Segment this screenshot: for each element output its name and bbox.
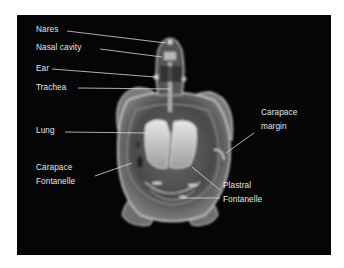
leader-nasal-cavity xyxy=(100,49,162,57)
label-carapace-margin-line1: Carapace xyxy=(261,108,297,118)
leader-ear xyxy=(52,69,155,77)
label-nares: Nares xyxy=(36,25,58,35)
leader-nares xyxy=(67,31,166,43)
label-trachea: Trachea xyxy=(36,83,66,93)
turtle-body xyxy=(117,38,233,226)
label-lung: Lung xyxy=(36,126,55,136)
label-carapace-fontanelle-line1: Carapace xyxy=(36,163,72,173)
label-plastral-fontanelle-line2: Fontanelle xyxy=(223,195,262,205)
label-carapace-margin-line2: margin xyxy=(261,122,287,132)
label-plastral-fontanelle-line1: Plastral xyxy=(223,181,251,191)
label-carapace-fontanelle-line2: Fontanelle xyxy=(36,177,75,187)
label-nasal-cavity: Nasal cavity xyxy=(36,43,81,53)
label-ear: Ear xyxy=(36,64,49,74)
